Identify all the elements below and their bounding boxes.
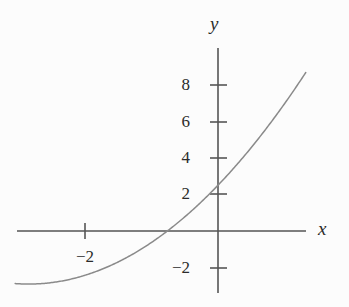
y-tick-label-8: 8 [160,76,190,93]
y-tick-label-6: 6 [160,113,190,130]
graph-figure: y x 8 6 4 2 −2 −2 [0,0,349,307]
x-axis-label: x [318,219,326,238]
parabola-curve [15,73,306,285]
y-tick-label-2: 2 [160,185,190,202]
y-axis-label: y [210,14,218,33]
y-tick-label-4: 4 [160,149,190,166]
x-tick-label-neg2: −2 [70,248,100,265]
y-tick-label-neg2: −2 [160,259,190,276]
